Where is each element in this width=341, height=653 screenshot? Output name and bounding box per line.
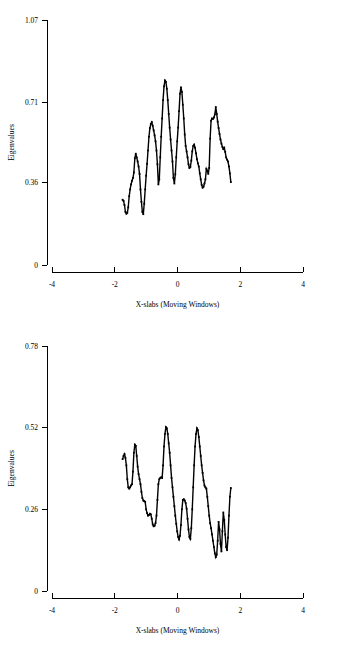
data-point-marker — [187, 156, 189, 158]
data-point-marker — [214, 552, 216, 554]
data-point-marker — [140, 189, 142, 191]
data-point-marker — [194, 147, 196, 149]
data-point-marker — [212, 540, 214, 542]
data-point-marker — [173, 496, 175, 498]
data-point-marker — [155, 140, 157, 142]
data-point-marker — [215, 556, 217, 558]
data-point-marker — [151, 518, 153, 520]
data-point-marker — [177, 536, 179, 538]
data-point-marker — [182, 104, 184, 106]
data-point-marker — [165, 81, 167, 83]
data-point-marker — [197, 429, 199, 431]
data-point-marker — [138, 473, 140, 475]
data-point-marker — [206, 170, 208, 172]
data-point-marker — [123, 455, 125, 457]
data-point-marker — [179, 93, 181, 95]
data-point-marker — [220, 139, 222, 141]
data-point-marker — [154, 525, 156, 527]
data-point-marker — [185, 502, 187, 504]
data-point-marker — [167, 433, 169, 435]
data-point-marker — [178, 539, 180, 541]
data-point-marker — [145, 175, 147, 177]
data-series-line — [123, 80, 231, 214]
data-point-marker — [229, 173, 231, 175]
data-point-marker — [169, 127, 171, 129]
data-point-marker — [217, 540, 219, 542]
data-point-marker — [198, 436, 200, 438]
y-axis-tick-label: 1.07 — [25, 16, 38, 25]
x-axis-tick-label: 2 — [238, 280, 242, 289]
eigenvalue-chart-top: 1.070.710.360Eigenvalues-4-2024X-slabs (… — [0, 0, 341, 326]
data-point-marker — [190, 527, 192, 529]
data-point-marker — [137, 466, 139, 468]
data-point-marker — [166, 427, 168, 429]
x-axis-tick-label: -2 — [112, 606, 118, 615]
data-point-marker — [141, 211, 143, 213]
data-point-marker — [155, 522, 157, 524]
data-point-marker — [194, 446, 196, 448]
chart-panel-bottom: 0.780.520.260Eigenvalues-4-2024X-slabs (… — [0, 326, 341, 653]
data-point-marker — [190, 160, 192, 162]
y-axis-tick-label: 0.36 — [25, 178, 38, 187]
data-point-marker — [188, 529, 190, 531]
data-point-marker — [152, 524, 154, 526]
data-point-marker — [159, 156, 161, 158]
data-point-marker — [126, 212, 128, 214]
data-point-marker — [143, 203, 145, 205]
data-point-marker — [145, 508, 147, 510]
data-point-marker — [161, 118, 163, 120]
data-point-marker — [129, 189, 131, 191]
data-point-marker — [171, 477, 173, 479]
data-point-marker — [214, 113, 216, 115]
data-point-marker — [161, 477, 163, 479]
data-point-marker — [203, 480, 205, 482]
data-point-marker — [181, 508, 183, 510]
data-point-marker — [131, 483, 133, 485]
data-point-marker — [142, 213, 144, 215]
data-point-marker — [217, 121, 219, 123]
data-point-marker — [180, 524, 182, 526]
data-point-marker — [202, 472, 204, 474]
data-point-marker — [173, 183, 175, 185]
data-series-line — [123, 427, 231, 557]
data-point-marker — [218, 127, 220, 129]
data-point-marker — [224, 534, 226, 536]
data-point-marker — [219, 133, 221, 135]
data-point-marker — [209, 138, 211, 140]
data-point-marker — [129, 486, 131, 488]
data-point-marker — [175, 156, 177, 158]
data-point-marker — [196, 427, 198, 429]
data-point-marker — [149, 127, 151, 129]
data-point-marker — [141, 491, 143, 493]
data-point-marker — [184, 500, 186, 502]
data-point-marker — [131, 180, 133, 182]
data-point-marker — [169, 452, 171, 454]
data-point-marker — [221, 146, 223, 148]
y-axis-title: Eigenvalues — [7, 124, 16, 161]
data-point-marker — [201, 464, 203, 466]
data-point-marker — [124, 204, 126, 206]
data-point-marker — [124, 453, 126, 455]
x-axis-tick-label: 0 — [176, 606, 180, 615]
data-point-marker — [139, 173, 141, 175]
data-point-marker — [139, 478, 141, 480]
data-point-marker — [153, 129, 155, 131]
data-point-marker — [226, 159, 228, 161]
data-point-marker — [189, 538, 191, 540]
data-point-marker — [179, 535, 181, 537]
data-point-marker — [172, 161, 174, 163]
data-point-marker — [157, 499, 159, 501]
data-point-marker — [166, 88, 168, 90]
x-axis-tick-label: -2 — [112, 280, 118, 289]
data-point-marker — [170, 464, 172, 466]
data-point-marker — [122, 458, 124, 460]
data-point-marker — [193, 464, 195, 466]
data-point-marker — [195, 152, 197, 154]
data-point-marker — [137, 161, 139, 163]
data-point-marker — [168, 113, 170, 115]
x-axis-tick-label: 4 — [301, 280, 305, 289]
data-point-marker — [199, 173, 201, 175]
data-point-marker — [151, 121, 153, 123]
y-axis-tick-label: 0.71 — [25, 98, 38, 107]
data-point-marker — [175, 523, 177, 525]
